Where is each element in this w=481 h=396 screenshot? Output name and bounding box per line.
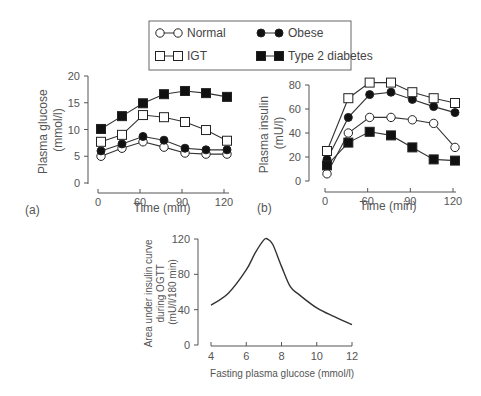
data-point-marker — [223, 92, 232, 101]
x-tick-label: 0 — [322, 195, 328, 207]
x-tick-label: 6 — [243, 350, 249, 362]
auc-curve — [211, 238, 352, 324]
y-tick-label: 0 — [184, 339, 190, 351]
y-axis-title-b: Plasma insulin (mU/l) — [257, 93, 286, 174]
legend-marker-icon — [174, 52, 183, 61]
data-point-marker — [408, 116, 416, 124]
x-tick-label: 120 — [215, 196, 233, 208]
data-point-marker — [387, 88, 395, 96]
x-tick-label: 120 — [444, 195, 462, 207]
legend-item: IGT — [156, 49, 208, 63]
y-tick-label: 0 — [74, 177, 80, 189]
x-tick-label: 0 — [95, 196, 101, 208]
data-point-marker — [451, 156, 460, 165]
chart-a: 05101520 06090120 Plasma glucose (mmol/l… — [25, 70, 233, 217]
data-point-marker — [408, 88, 417, 97]
data-point-marker — [323, 147, 332, 156]
data-point-marker — [365, 78, 374, 87]
data-point-marker — [97, 147, 105, 155]
y-tick-label: 10 — [68, 124, 80, 136]
data-point-marker — [202, 126, 211, 135]
x-axis-title-b: Time (min) — [360, 199, 417, 213]
figure: NormalObeseIGTType 2 diabetes 05101520 0… — [0, 0, 481, 396]
data-point-marker — [451, 109, 459, 117]
data-point-marker — [408, 143, 417, 152]
y-tick-label: 80 — [178, 268, 190, 280]
data-point-marker — [344, 138, 353, 147]
data-point-marker — [118, 140, 126, 148]
series-type-2-diabetes — [323, 127, 460, 170]
legend-marker-icon — [174, 29, 182, 37]
data-point-marker — [365, 113, 373, 121]
data-point-marker — [181, 118, 190, 127]
legend-marker-icon — [275, 52, 284, 61]
y-axis-title-a: Plasma glucose (mmol/l) — [36, 86, 65, 174]
legend-label: Normal — [187, 26, 226, 40]
legend-marker-icon — [275, 29, 283, 37]
data-point-marker — [429, 94, 438, 103]
x-axis-title-c: Fasting plasma glucose (mmol/l) — [210, 368, 354, 379]
data-point-marker — [160, 90, 169, 99]
data-point-marker — [344, 94, 353, 103]
data-point-marker — [223, 146, 231, 154]
y-tick-label: 120 — [172, 233, 190, 245]
chart-c: 04080120 4681012 Area under insulin curv… — [143, 233, 358, 379]
y-tick-label: 0 — [295, 175, 301, 187]
data-point-marker — [430, 103, 438, 111]
data-point-marker — [387, 131, 396, 140]
legend-marker-icon — [156, 29, 164, 37]
x-tick-label: 12 — [346, 350, 358, 362]
chart-b: 020406080 06090120 Plasma insulin (mU/l)… — [257, 78, 462, 215]
data-point-marker — [387, 113, 395, 121]
legend-marker-icon — [156, 52, 165, 61]
data-point-marker — [202, 89, 211, 98]
y-tick-label: 40 — [178, 304, 190, 316]
data-point-marker — [139, 111, 148, 120]
x-axis-title-a: Time (min) — [134, 201, 191, 215]
data-point-marker — [160, 136, 168, 144]
data-point-marker — [181, 86, 190, 95]
data-point-marker — [344, 129, 352, 137]
data-point-marker — [118, 112, 127, 121]
data-point-marker — [181, 144, 189, 152]
y-axis-title-c: Area under insulin curve during OGTT (mU… — [143, 237, 178, 348]
data-point-marker — [223, 136, 232, 145]
legend-marker-icon — [257, 52, 266, 61]
legend: NormalObeseIGTType 2 diabetes — [149, 21, 373, 70]
y-tick-label: 5 — [74, 150, 80, 162]
data-point-marker — [429, 119, 437, 127]
legend-label: Obese — [288, 26, 324, 40]
y-tick-label: 20 — [289, 151, 301, 163]
data-point-marker — [387, 78, 396, 87]
data-point-marker — [139, 132, 147, 140]
legend-marker-icon — [257, 29, 265, 37]
y-tick-label: 15 — [68, 97, 80, 109]
legend-label: Type 2 diabetes — [288, 49, 373, 63]
data-point-marker — [97, 124, 106, 133]
data-point-marker — [118, 130, 127, 139]
data-point-marker — [139, 99, 148, 108]
data-point-marker — [160, 113, 169, 122]
data-point-marker — [323, 161, 332, 170]
y-tick-label: 80 — [289, 79, 301, 91]
panel-label-a: (a) — [25, 203, 40, 217]
panel-label-b: (b) — [257, 201, 272, 215]
data-point-marker — [451, 143, 459, 151]
x-tick-label: 4 — [208, 350, 214, 362]
y-tick-label: 40 — [289, 127, 301, 139]
x-tick-label: 10 — [311, 350, 323, 362]
data-point-marker — [429, 155, 438, 164]
x-tick-label: 8 — [278, 350, 284, 362]
data-point-marker — [365, 127, 374, 136]
data-point-marker — [97, 137, 106, 146]
legend-label: IGT — [187, 49, 208, 63]
data-point-marker — [451, 99, 460, 108]
series-type-2-diabetes — [97, 86, 232, 133]
data-point-marker — [344, 113, 352, 121]
y-tick-label: 60 — [289, 103, 301, 115]
data-point-marker — [202, 146, 210, 154]
series-normal — [323, 113, 459, 178]
data-point-marker — [323, 170, 331, 178]
y-tick-label: 20 — [68, 70, 80, 82]
data-point-marker — [366, 91, 374, 99]
